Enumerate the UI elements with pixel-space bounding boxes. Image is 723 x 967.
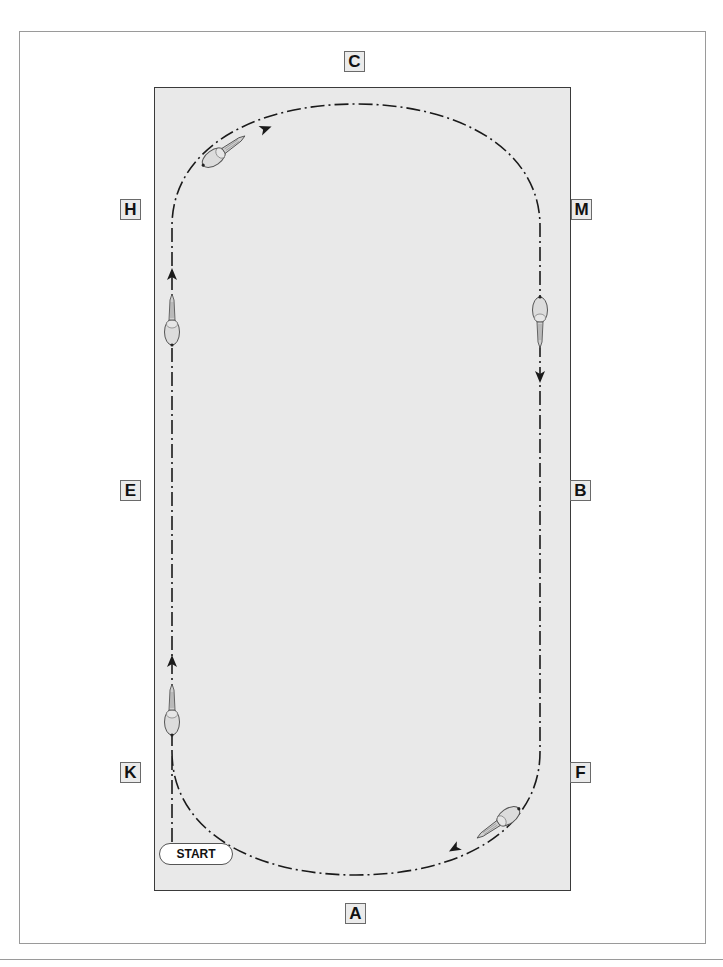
marker-f: F: [570, 762, 591, 783]
marker-k: K: [120, 762, 141, 783]
rider-icon-left-lower: [165, 684, 180, 737]
track-diagram: [0, 0, 723, 967]
marker-h: H: [120, 199, 141, 220]
rider-icon-bottom-right: [473, 802, 525, 844]
marker-a: A: [345, 903, 366, 924]
marker-c: C: [344, 51, 365, 72]
rider-icon-right: [533, 295, 548, 348]
rider-icon-left-upper: [165, 294, 180, 347]
marker-e: E: [120, 480, 141, 501]
direction-arrow-top: [259, 122, 274, 136]
direction-arrow-bottom: [446, 841, 461, 856]
start-label: START: [159, 843, 233, 865]
marker-b: B: [570, 480, 591, 501]
track-path: [172, 104, 540, 875]
marker-m: M: [571, 199, 592, 220]
